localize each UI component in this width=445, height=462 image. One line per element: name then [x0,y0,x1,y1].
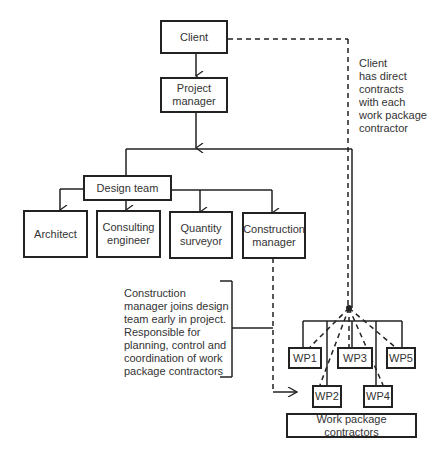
wp4-label: WP4 [366,390,390,403]
wp2-box: WP2 [312,385,342,408]
consulting-engineer-box: Consulting engineer [96,210,161,258]
client-box: Client [160,20,228,54]
work-package-contractors-box: Work package contractors [286,413,417,438]
project-manager-box: Project manager [160,77,228,113]
work-package-contractors-label: Work package contractors [288,413,415,439]
construction-manager-label: Construction manager [243,223,305,249]
architect-box: Architect [23,210,88,258]
design-team-label: Design team [97,182,159,195]
construction-manager-box: Construction manager [242,212,306,259]
wp5-label: WP5 [389,352,413,365]
wp5-box: WP5 [386,347,416,369]
quantity-surveyor-label: Quantity surveyor [180,222,222,248]
wp3-label: WP3 [343,352,367,365]
wp3-box: WP3 [337,347,373,369]
wp1-box: WP1 [288,347,322,369]
design-team-box: Design team [83,175,172,201]
client-label: Client [180,31,208,44]
architect-label: Architect [34,228,77,241]
client-contracts-note: Client has direct contracts with each wo… [359,57,427,135]
wp4-box: WP4 [363,385,393,408]
consulting-engineer-label: Consulting engineer [103,221,155,247]
wp2-label: WP2 [315,390,339,403]
wp1-label: WP1 [293,352,317,365]
quantity-surveyor-box: Quantity surveyor [169,211,233,259]
hub-dot [346,305,352,311]
project-manager-label: Project manager [172,82,215,108]
construction-manager-role-note: Construction manager joins design team e… [124,287,229,378]
